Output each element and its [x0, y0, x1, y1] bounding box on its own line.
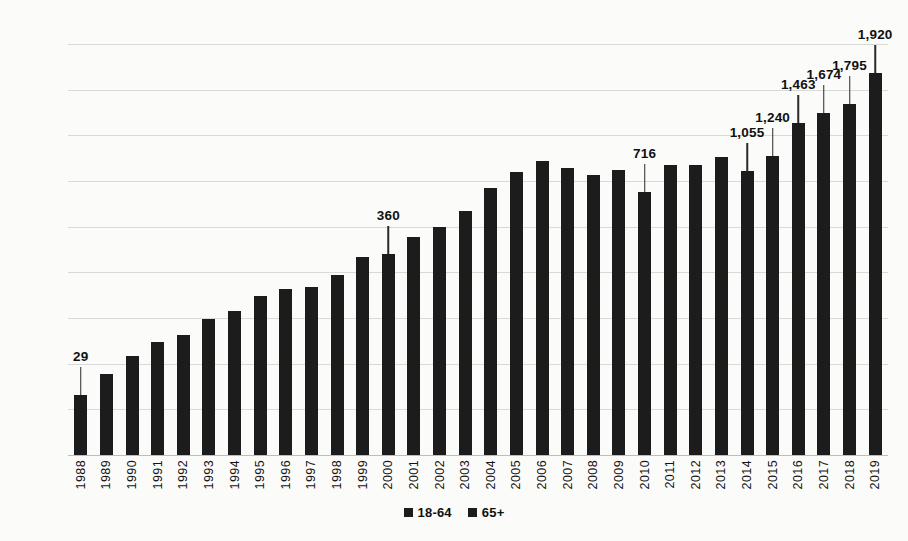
x-axis-tick-label: 1993 [202, 460, 216, 489]
data-label-leader-line [798, 95, 800, 123]
data-label-leader-line [644, 164, 646, 192]
bar-segment-18-64 [510, 192, 523, 455]
bar-segment-18-64 [279, 296, 292, 455]
bar-segment-65plus [382, 254, 395, 270]
bar-segment-18-64 [407, 250, 420, 455]
bar-column[interactable] [766, 156, 779, 455]
data-label-leader-line [849, 76, 851, 104]
bar-segment-18-64 [331, 284, 344, 455]
bar-column[interactable] [202, 319, 215, 455]
bar-segment-18-64 [151, 346, 164, 455]
data-label: 360 [377, 208, 400, 223]
legend-label: 18-64 [418, 505, 452, 520]
bar-segment-65plus [433, 227, 446, 241]
bar-segment-18-64 [100, 376, 113, 455]
bar-segment-18-64 [843, 186, 856, 455]
x-axis-tick-label: 2016 [791, 460, 805, 489]
bar-segment-18-64 [612, 198, 625, 455]
bar-segment-65plus [689, 165, 702, 197]
bar-segment-18-64 [74, 397, 87, 455]
bar-column[interactable] [843, 104, 856, 455]
bar-column[interactable] [869, 73, 882, 455]
bar-column[interactable] [331, 275, 344, 455]
x-axis-tick-label: 2015 [766, 460, 780, 489]
bar-segment-18-64 [792, 190, 805, 455]
x-axis-tick-label: 2010 [638, 460, 652, 489]
bar-column[interactable] [536, 161, 549, 455]
x-axis-tick-label: 2006 [535, 460, 549, 489]
x-axis-tick-label: 2011 [663, 460, 677, 488]
bar-segment-65plus [664, 165, 677, 196]
data-label: 1,055 [730, 125, 765, 140]
bar-segment-65plus [510, 172, 523, 192]
bar-segment-18-64 [766, 213, 779, 455]
data-label-leader-line [80, 367, 82, 395]
plot-area: 0100020003000400050006000700080009000 29… [68, 44, 888, 455]
x-axis-tick-label: 2019 [868, 460, 882, 489]
bar-column[interactable] [177, 335, 190, 455]
bar-column[interactable] [484, 188, 497, 455]
bar-segment-65plus [561, 168, 574, 192]
x-axis-tick-label: 1999 [356, 460, 370, 489]
bar-column[interactable] [638, 192, 651, 455]
bar-column[interactable] [817, 113, 830, 455]
bar-column[interactable] [100, 374, 113, 455]
legend-swatch-icon [404, 508, 413, 517]
bar-column[interactable] [612, 170, 625, 455]
x-axis-tick-label: 1997 [304, 460, 318, 489]
bar-column[interactable] [459, 211, 472, 455]
bar-segment-18-64 [561, 191, 574, 455]
bar-column[interactable] [741, 171, 754, 455]
bar-segment-65plus [638, 192, 651, 225]
bar-column[interactable] [228, 311, 241, 455]
bar-chart: 0100020003000400050006000700080009000 29… [0, 0, 908, 541]
x-axis-tick-label: 2004 [484, 460, 498, 489]
bar-segment-65plus [869, 73, 882, 161]
bar-column[interactable] [279, 289, 292, 455]
bar-segment-18-64 [202, 323, 215, 455]
bar-column[interactable] [689, 165, 702, 455]
x-axis-tick-label: 1992 [176, 460, 190, 489]
bar-column[interactable] [561, 168, 574, 455]
x-axis-tick-label: 2003 [458, 460, 472, 489]
bar-segment-18-64 [126, 358, 139, 455]
bar-column[interactable] [510, 172, 523, 455]
data-label: 1,795 [832, 58, 867, 73]
bar-segment-18-64 [459, 226, 472, 455]
x-axis-tick-label: 2000 [381, 460, 395, 489]
legend-item[interactable]: 65+ [468, 505, 505, 520]
bar-column[interactable] [254, 296, 267, 455]
bar-column[interactable] [587, 175, 600, 455]
bar-column[interactable] [382, 254, 395, 455]
chart-legend: 18-6465+ [0, 505, 908, 520]
data-label-leader-line [388, 226, 390, 254]
data-label-leader-line [772, 128, 774, 156]
x-axis-tick-label: 2018 [843, 460, 857, 489]
bar-segment-18-64 [587, 200, 600, 455]
bar-segment-18-64 [869, 161, 882, 455]
legend-item[interactable]: 18-64 [404, 505, 452, 520]
bar-segment-65plus [279, 289, 292, 296]
bar-segment-65plus [612, 170, 625, 197]
bar-segment-18-64 [817, 190, 830, 455]
bar-segment-65plus [305, 287, 318, 295]
legend-label: 65+ [482, 505, 505, 520]
bar-column[interactable] [151, 342, 164, 455]
bar-segment-65plus [587, 175, 600, 201]
bar-column[interactable] [715, 157, 728, 455]
bar-segment-18-64 [715, 191, 728, 455]
bar-column[interactable] [356, 257, 369, 455]
bar-segment-18-64 [356, 267, 369, 455]
x-axis-tick-label: 1995 [253, 460, 267, 489]
bar-column[interactable] [792, 123, 805, 455]
bar-column[interactable] [664, 165, 677, 455]
x-axis-tick-label: 1990 [125, 460, 139, 489]
bar-column[interactable] [407, 237, 420, 455]
bar-column[interactable] [305, 287, 318, 455]
bar-segment-65plus [766, 156, 779, 213]
x-axis-tick-label: 1991 [151, 460, 165, 489]
bar-column[interactable] [126, 356, 139, 455]
bar-column[interactable] [74, 395, 87, 455]
bar-column[interactable] [433, 227, 446, 455]
data-label: 1,920 [858, 27, 893, 42]
